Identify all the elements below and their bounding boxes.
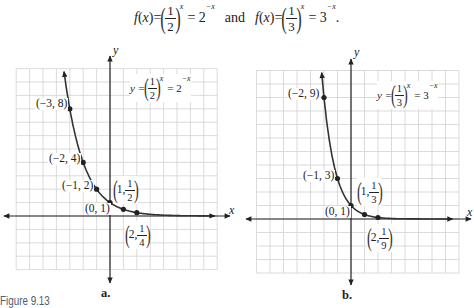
denominator: 3 [397,96,402,108]
point-label: (−1, 3) [302,170,335,182]
exponent: −x [182,75,191,83]
big-paren: ) [296,3,302,33]
big-paren: ( [125,222,130,248]
data-point [121,207,126,212]
graph-a [4,56,230,283]
rhs: = 2 [187,11,205,25]
exponent: −x [206,3,215,11]
data-point [94,187,99,192]
big-paren: ( [391,82,396,108]
rhs: = 3 [308,11,326,25]
denominator: 4 [139,236,144,248]
data-point [321,95,326,100]
exponent: −x [327,3,336,11]
point-label: (−3, 8) [35,98,68,110]
exponent: −x [429,82,438,90]
big-paren: ) [156,75,161,101]
eq-rhs: = 2 [167,83,181,94]
denominator: 9 [381,239,386,251]
point-label-fraction: ( 2, 1 4 ) [125,221,150,249]
eq-lhs: y = [130,83,145,94]
data-point [375,215,380,220]
y-axis-label-a: y [113,44,118,56]
header-equation: f ( x ) = ( 1 2 ) x = 2 −x and f ( x ) =… [134,2,339,34]
data-point [335,176,340,181]
point-label: (−2, 9) [287,88,320,100]
denominator: 2 [167,19,174,33]
eq-rhs: = 3 [414,90,428,101]
x-axis-label-a: x [229,204,234,216]
equation-label-a: y = ( 1 2 ) x = 2 −x [130,74,191,102]
point-label-fraction: ( 1, 1 3 ) [357,178,382,206]
denominator: 2 [150,89,155,101]
big-paren: ) [387,225,392,251]
big-paren: ( [367,225,372,251]
point-label: (−1, 2) [61,180,94,192]
point-label-fraction: ( 1, 1 2 ) [113,176,138,204]
point-label: (0, 1) [324,206,351,218]
big-paren: ( [113,177,118,203]
big-paren: ) [403,82,408,108]
big-paren: ) [133,177,138,203]
panel-label-b: b. [342,289,352,302]
big-paren: ( [161,3,167,33]
point-label-fraction: ( 2, 1 9 ) [367,224,392,252]
point-x: 1, [117,184,126,196]
point-label: (−2, 4) [48,153,81,165]
big-paren: ) [145,222,150,248]
panel-label-a: a. [101,287,110,300]
point-x: 2, [371,232,380,244]
eq-lhs: y = [377,90,392,101]
denominator: 2 [127,191,132,203]
figure-label: Figure 9.13 [0,295,50,307]
data-point [134,210,139,215]
point-label: (0, 1) [84,203,111,215]
denominator: 3 [288,19,295,33]
point-x: 1, [361,186,370,198]
denominator: 3 [371,193,376,205]
data-point [362,212,367,217]
equation-label-b: y = ( 1 3 ) x = 3 −x [377,81,438,109]
big-paren: ) [377,179,382,205]
conjunction: and [225,11,245,25]
x-axis-label-b: x [467,206,472,218]
y-axis-label-b: y [354,46,359,58]
big-paren: ( [144,75,149,101]
big-paren: ( [282,3,288,33]
point-x: 2, [129,229,138,241]
period: . [336,11,340,25]
big-paren: ( [357,179,362,205]
big-paren: ) [175,3,181,33]
